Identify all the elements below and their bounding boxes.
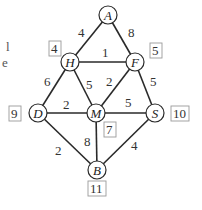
- svg-text:H: H: [64, 55, 75, 70]
- svg-text:5: 5: [152, 43, 159, 58]
- weight-M-S: 5: [125, 95, 132, 110]
- weight-A-F: 8: [128, 25, 135, 40]
- svg-text:M: M: [90, 106, 103, 121]
- svg-text:4: 4: [51, 41, 58, 56]
- node-M: M: [87, 104, 105, 122]
- svg-text:10: 10: [173, 106, 186, 121]
- node-A: A: [99, 6, 117, 24]
- weight-F-S: 5: [150, 74, 157, 89]
- weight-S-B: 4: [131, 138, 138, 153]
- node-H: H: [61, 53, 79, 71]
- node-S: S: [146, 104, 164, 122]
- svg-text:11: 11: [90, 181, 103, 196]
- svg-text:A: A: [103, 8, 112, 23]
- weighted-graph-diagram: 4 8 1 6 5 2 5 2 5 8 2 4 4 5 9 7 10: [0, 0, 202, 210]
- svg-text:F: F: [130, 55, 140, 70]
- node-F: F: [126, 53, 144, 71]
- box-label-S: 10: [171, 106, 189, 121]
- clipped-text: l e: [2, 39, 10, 70]
- box-label-B: 11: [88, 181, 106, 196]
- weight-H-M: 5: [86, 77, 93, 92]
- clipped-text-fragment: e: [2, 55, 8, 70]
- svg-text:7: 7: [106, 122, 113, 137]
- box-label-H: 4: [49, 41, 61, 56]
- node-D: D: [29, 104, 47, 122]
- svg-text:D: D: [32, 106, 43, 121]
- box-label-M: 7: [104, 122, 116, 137]
- svg-text:S: S: [152, 106, 159, 121]
- weight-A-H: 4: [78, 25, 85, 40]
- svg-text:9: 9: [11, 106, 18, 121]
- box-label-F: 5: [150, 43, 162, 58]
- weight-H-F: 1: [102, 45, 109, 60]
- node-B: B: [88, 161, 106, 179]
- svg-text:B: B: [93, 163, 101, 178]
- weight-H-D: 6: [44, 74, 51, 89]
- weight-D-B: 2: [55, 143, 62, 158]
- clipped-text-fragment: l: [6, 39, 10, 54]
- weight-M-B: 8: [84, 134, 91, 149]
- weight-D-M: 2: [63, 97, 70, 112]
- weight-F-M: 2: [106, 74, 113, 89]
- box-label-D: 9: [9, 106, 21, 121]
